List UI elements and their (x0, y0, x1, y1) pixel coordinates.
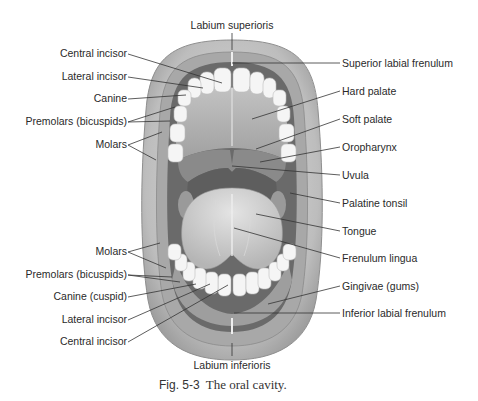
label-inferior-labial-frenulum: Inferior labial frenulum (342, 307, 446, 319)
label-frenulum-lingua: Frenulum lingua (342, 252, 417, 264)
label-canine-upper: Canine (94, 92, 127, 104)
label-central-incisor-upper: Central incisor (60, 47, 127, 59)
label-superior-labial-frenulum: Superior labial frenulum (342, 57, 453, 69)
label-molars-upper: Molars (95, 138, 127, 150)
label-canine-lower: Canine (cuspid) (53, 290, 127, 302)
label-lateral-incisor-upper: Lateral incisor (62, 70, 127, 82)
label-uvula: Uvula (342, 169, 369, 181)
label-gingivae: Gingivae (gums) (342, 280, 419, 292)
figure-caption: Fig. 5-3The oral cavity. (159, 377, 287, 393)
label-oropharynx: Oropharynx (342, 141, 397, 153)
label-palatine-tonsil: Palatine tonsil (342, 197, 407, 209)
label-labium-superioris: Labium superioris (191, 19, 274, 31)
label-lateral-incisor-lower: Lateral incisor (62, 313, 127, 325)
oral-cavity-figure: Labium superioris Central incisor Latera… (0, 0, 478, 401)
label-tongue: Tongue (342, 225, 376, 237)
label-soft-palate: Soft palate (342, 113, 392, 125)
label-central-incisor-lower: Central incisor (60, 335, 127, 347)
label-premolars-upper: Premolars (bicuspids) (25, 115, 127, 127)
figure-caption-text: The oral cavity. (206, 377, 287, 392)
label-molars-lower: Molars (95, 245, 127, 257)
label-hard-palate: Hard palate (342, 85, 396, 97)
label-premolars-lower: Premolars (bicuspids) (25, 268, 127, 280)
label-labium-inferioris: Labium inferioris (193, 359, 270, 371)
figure-number: Fig. 5-3 (159, 378, 200, 392)
